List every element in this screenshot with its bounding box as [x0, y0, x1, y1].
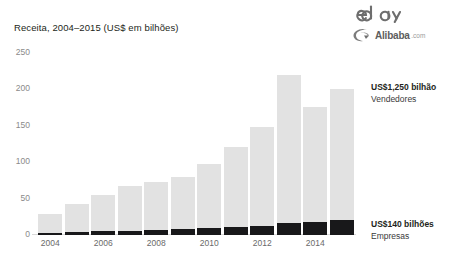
bar-2015 — [330, 89, 354, 235]
ebay-logo — [356, 5, 402, 23]
bar-2006 — [91, 195, 115, 235]
annotation-companies-label: Empresas — [371, 231, 434, 243]
bar-segment-empresas — [171, 229, 195, 235]
bar-segment-empresas — [38, 233, 62, 235]
bar-segment-vendedores — [144, 182, 168, 235]
bar-segment-vendedores — [197, 164, 221, 235]
bar-2014 — [303, 107, 327, 235]
x-tick-label: 2010 — [200, 238, 219, 248]
bar-segment-vendedores — [224, 147, 248, 235]
bar-segment-empresas — [250, 226, 274, 235]
bar-2012 — [250, 127, 274, 235]
bar-segment-empresas — [224, 227, 248, 235]
bar-segment-empresas — [197, 228, 221, 235]
bar-segment-empresas — [277, 223, 301, 235]
bar-segment-vendedores — [65, 204, 89, 235]
x-tick-label: 2012 — [253, 238, 272, 248]
bar-segment-vendedores — [38, 214, 62, 235]
bar-2011 — [224, 147, 248, 235]
bar-segment-empresas — [91, 231, 115, 235]
bar-2009 — [171, 177, 195, 235]
bar-2004 — [38, 214, 62, 235]
bar-segment-empresas — [118, 231, 142, 235]
x-tick-label: 2014 — [306, 238, 325, 248]
bar-2010 — [197, 164, 221, 235]
revenue-chart-figure: Receita, 2004–2015 (US$ em bilhões) — [0, 0, 452, 266]
chart-title: Receita, 2004–2015 (US$ em bilhões) — [14, 22, 179, 33]
bar-2008 — [144, 182, 168, 235]
alibaba-logo-suffix: .com — [411, 32, 425, 39]
annotation-companies-value: US$140 bilhões — [371, 219, 434, 231]
bar-segment-vendedores — [171, 177, 195, 235]
plot-area — [37, 44, 355, 235]
bar-segment-vendedores — [91, 195, 115, 235]
logo-group: Alibaba .com — [352, 2, 450, 50]
y-tick-label: 50 — [0, 193, 30, 203]
alibaba-logo: Alibaba .com — [352, 27, 425, 43]
x-tick-label: 2004 — [41, 238, 60, 248]
bar-2013 — [277, 75, 301, 235]
y-tick-label: 250 — [0, 47, 30, 57]
annotation-sellers-label: Vendedores — [371, 94, 436, 106]
y-tick-label: 100 — [0, 156, 30, 166]
y-tick-label: 150 — [0, 120, 30, 130]
bar-segment-vendedores — [330, 89, 354, 235]
bar-segment-empresas — [65, 232, 89, 235]
bar-segment-vendedores — [277, 75, 301, 235]
bar-segment-empresas — [144, 230, 168, 235]
y-tick-label: 0 — [0, 229, 30, 239]
bar-segment-empresas — [330, 220, 354, 235]
bar-segment-empresas — [303, 222, 327, 235]
alibaba-mark-icon — [352, 27, 374, 43]
bar-2007 — [118, 186, 142, 236]
bar-segment-vendedores — [250, 127, 274, 235]
bar-2005 — [65, 204, 89, 235]
alibaba-logo-text: Alibaba — [375, 30, 410, 41]
annotation-sellers-value: US$1,250 bilhão — [371, 82, 436, 94]
x-tick-label: 2006 — [94, 238, 113, 248]
y-tick-label: 200 — [0, 83, 30, 93]
x-tick-label: 2008 — [147, 238, 166, 248]
bar-segment-vendedores — [118, 186, 142, 236]
bar-segment-vendedores — [303, 107, 327, 235]
annotation-companies: US$140 bilhões Empresas — [371, 219, 434, 242]
annotation-sellers: US$1,250 bilhão Vendedores — [371, 82, 436, 105]
bar-series — [37, 44, 355, 235]
